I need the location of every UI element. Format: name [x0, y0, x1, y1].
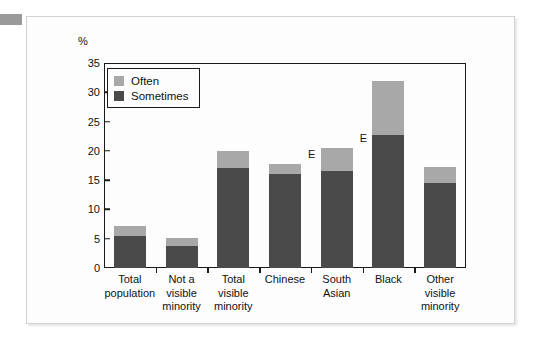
- x-axis-tick-mark: [363, 268, 365, 273]
- legend-item[interactable]: Often: [114, 73, 189, 88]
- y-axis-tick-label: 20: [70, 145, 100, 157]
- x-axis-label-line: Asian: [307, 287, 367, 301]
- y-axis-tick-label: 30: [70, 86, 100, 98]
- x-axis-label-line: minority: [203, 300, 263, 314]
- chart-screenshot: % 05101520253035 EE OftenSometimes Total…: [0, 0, 537, 344]
- x-axis-label-line: visible: [410, 287, 470, 301]
- stacked-bar[interactable]: [269, 164, 301, 268]
- bar-group: [321, 63, 353, 268]
- y-axis-tick-label: 5: [70, 233, 100, 245]
- bar-segment-often: [166, 238, 198, 246]
- bar-group: [372, 63, 404, 268]
- legend-color-swatch: [114, 91, 124, 101]
- y-axis-tick-label: 35: [70, 57, 100, 69]
- chart-legend: OftenSometimes: [107, 68, 200, 108]
- stacked-bar[interactable]: [321, 148, 353, 268]
- bar-segment-sometimes: [217, 168, 249, 268]
- y-axis-tick-labels: 05101520253035: [66, 0, 100, 344]
- legend-color-swatch: [114, 76, 124, 86]
- y-axis-tick-label: 10: [70, 203, 100, 215]
- stacked-bar[interactable]: [166, 238, 198, 268]
- y-axis-tick-label: 25: [70, 116, 100, 128]
- legend-item[interactable]: Sometimes: [114, 88, 189, 103]
- bar-segment-sometimes: [166, 246, 198, 268]
- stacked-bar[interactable]: [114, 226, 146, 268]
- bar-group: [217, 63, 249, 268]
- bar-segment-often: [217, 151, 249, 169]
- y-axis-tick-label: 0: [70, 262, 100, 274]
- stacked-bar[interactable]: [217, 151, 249, 268]
- x-axis-label-line: minority: [410, 300, 470, 314]
- data-quality-marker-e: E: [360, 132, 367, 144]
- x-axis-label-line: Other: [410, 273, 470, 287]
- x-axis-label-line: visible: [203, 287, 263, 301]
- bar-segment-often: [269, 164, 301, 175]
- bar-segment-often: [114, 226, 146, 237]
- stacked-bar[interactable]: [372, 81, 404, 268]
- y-axis-tick-label: 15: [70, 174, 100, 186]
- data-quality-marker-e: E: [308, 148, 315, 160]
- x-axis-category-label: Othervisibleminority: [410, 273, 470, 314]
- bar-segment-sometimes: [114, 236, 146, 268]
- bar-segment-sometimes: [372, 135, 404, 268]
- x-axis-tick-mark: [207, 268, 209, 273]
- bar-segment-sometimes: [269, 174, 301, 268]
- bar-segment-often: [372, 81, 404, 135]
- bar-segment-sometimes: [424, 183, 456, 269]
- bar-segment-often: [424, 167, 456, 183]
- stacked-bar[interactable]: [424, 167, 456, 268]
- legend-label: Often: [131, 75, 159, 87]
- legend-label: Sometimes: [131, 90, 189, 102]
- x-axis-tick-mark: [414, 268, 416, 273]
- x-axis-tick-mark: [259, 268, 261, 273]
- bar-group: [269, 63, 301, 268]
- bar-segment-often: [321, 148, 353, 171]
- x-axis-tick-mark: [156, 268, 158, 273]
- bar-segment-sometimes: [321, 171, 353, 268]
- x-axis-tick-mark: [311, 268, 313, 273]
- corner-swatch-decoration: [0, 14, 22, 25]
- bar-group: [424, 63, 456, 268]
